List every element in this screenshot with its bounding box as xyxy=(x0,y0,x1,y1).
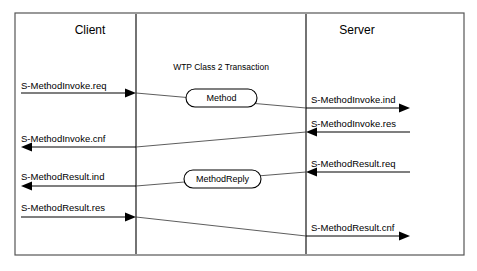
transfer-line-group xyxy=(136,93,306,236)
lifeline-label-server: Server xyxy=(339,23,374,37)
primitive-s-methodinvoke-cnf: S-MethodInvoke.cnf xyxy=(21,133,136,152)
primitive-label-s-methodresult-res: S-MethodResult.res xyxy=(21,202,105,213)
pdu-box-group: MethodMethodReply xyxy=(184,89,261,188)
role-label-group: ClientServer xyxy=(75,23,375,37)
pdu-box-method: Method xyxy=(186,89,257,107)
wtp-class-2-transaction-diagram: WTP Class 2 Transaction S-MethodInvoke.r… xyxy=(0,0,477,271)
lifeline-label-client: Client xyxy=(75,23,106,37)
primitive-s-methodresult-req: S-MethodResult.req xyxy=(306,158,410,177)
pdu-box-label-method-reply: MethodReply xyxy=(196,174,250,184)
primitive-s-methodresult-cnf: S-MethodResult.cnf xyxy=(306,222,410,241)
primitive-s-methodinvoke-req: S-MethodInvoke.req xyxy=(21,80,136,98)
primitive-label-s-methodinvoke-res: S-MethodInvoke.res xyxy=(311,118,396,129)
primitive-label-s-methodresult-req: S-MethodResult.req xyxy=(311,158,395,169)
primitive-s-methodresult-ind: S-MethodResult.ind xyxy=(21,171,136,191)
pdu-box-method-reply: MethodReply xyxy=(184,170,261,188)
method-result-ack-transfer xyxy=(136,217,306,236)
primitive-s-methodresult-res: S-MethodResult.res xyxy=(21,202,136,222)
method-invoke-ack-transfer xyxy=(136,132,306,147)
primitive-label-s-methodinvoke-ind: S-MethodInvoke.ind xyxy=(311,94,396,105)
primitive-s-methodinvoke-res: S-MethodInvoke.res xyxy=(306,118,410,137)
pdu-box-label-method: Method xyxy=(206,93,236,103)
primitive-label-s-methodresult-ind: S-MethodResult.ind xyxy=(21,171,104,182)
primitive-label-s-methodinvoke-cnf: S-MethodInvoke.cnf xyxy=(21,133,106,144)
primitive-label-s-methodresult-cnf: S-MethodResult.cnf xyxy=(311,222,395,233)
primitive-s-methodinvoke-ind: S-MethodInvoke.ind xyxy=(306,94,410,113)
primitive-label-s-methodinvoke-req: S-MethodInvoke.req xyxy=(21,80,107,91)
sequence-diagram-canvas: WTP Class 2 Transaction S-MethodInvoke.r… xyxy=(0,0,477,271)
transaction-title: WTP Class 2 Transaction xyxy=(173,62,269,72)
